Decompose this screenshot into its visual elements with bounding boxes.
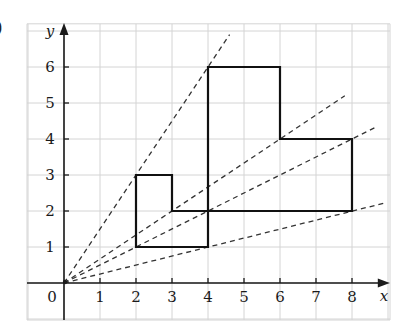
axis-labels: 123456781234560xy xyxy=(45,22,389,306)
x-tick-label: 3 xyxy=(167,288,177,306)
dashed-rays xyxy=(64,35,384,283)
x-axis-label: x xyxy=(380,287,389,305)
y-axis-arrow-icon xyxy=(60,23,69,35)
x-tick-label: 2 xyxy=(131,288,141,306)
y-axis-label: y xyxy=(45,22,55,40)
x-tick-label: 8 xyxy=(347,288,357,306)
dashed-ray xyxy=(64,35,230,283)
x-tick-label: 4 xyxy=(203,288,213,306)
y-tick-label: 2 xyxy=(45,202,55,220)
dashed-ray xyxy=(64,96,345,283)
origin-label: 0 xyxy=(47,288,57,306)
x-tick-label: 5 xyxy=(239,288,249,306)
x-tick-label: 7 xyxy=(311,288,321,306)
y-tick-label: 5 xyxy=(45,94,55,112)
origin-dot xyxy=(63,280,67,284)
x-tick-label: 1 xyxy=(95,288,105,306)
x-tick-label: 6 xyxy=(275,288,285,306)
dashed-ray xyxy=(64,126,377,283)
y-tick-label: 1 xyxy=(45,238,55,256)
y-tick-label: 4 xyxy=(45,130,55,148)
enlargement-diagram: 123456781234560xy xyxy=(0,0,407,325)
y-tick-label: 6 xyxy=(45,58,55,76)
y-tick-label: 3 xyxy=(45,166,55,184)
dashed-ray xyxy=(64,203,384,283)
